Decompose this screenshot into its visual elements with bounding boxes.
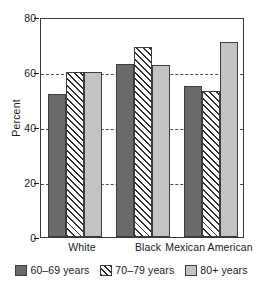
bar-black-80-years xyxy=(152,65,170,237)
bar-black-60-69-years xyxy=(116,64,134,237)
y-tick-label-60: 60 xyxy=(14,68,36,78)
x-axis-tick-labels: White Black Mexican American xyxy=(40,241,244,257)
legend-swatch-70-79-icon xyxy=(100,265,112,276)
chart-legend: 60–69 years 70–79 years 80+ years xyxy=(0,264,263,276)
y-tick-label-80: 80 xyxy=(14,13,36,23)
bar-mexican-american-70-79-years xyxy=(202,91,220,237)
legend-entry-60-69: 60–69 years xyxy=(15,264,89,276)
y-tick-mark-20 xyxy=(34,183,39,184)
plot-area xyxy=(40,18,244,238)
bar-black-70-79-years xyxy=(134,47,152,237)
bar-white-70-79-years xyxy=(66,72,84,237)
legend-label-60-69: 60–69 years xyxy=(30,264,89,276)
bar-mexican-american-60-69-years xyxy=(184,86,202,237)
legend-entry-80-plus: 80+ years xyxy=(185,264,247,276)
y-tick-mark-40 xyxy=(34,128,39,129)
y-tick-mark-60 xyxy=(34,73,39,74)
bar-white-60-69-years xyxy=(48,94,66,237)
legend-label-70-79: 70–79 years xyxy=(115,264,174,276)
bar-white-80-years xyxy=(84,72,102,237)
x-tick-label-mexican-american: Mexican American xyxy=(154,241,263,253)
y-tick-label-20: 20 xyxy=(14,178,36,188)
legend-swatch-80-plus-icon xyxy=(185,265,197,276)
legend-label-80-plus: 80+ years xyxy=(200,264,247,276)
y-tick-mark-0 xyxy=(34,238,39,239)
bar-mexican-american-80-years xyxy=(220,42,238,237)
bars-layer xyxy=(41,19,243,237)
legend-entry-70-79: 70–79 years xyxy=(100,264,174,276)
bar-chart-figure: Percent 80 60 40 20 0 White Black Mexica… xyxy=(0,0,263,290)
legend-swatch-60-69-icon xyxy=(15,265,27,276)
y-tick-label-40: 40 xyxy=(14,123,36,133)
y-tick-mark-80 xyxy=(34,18,39,19)
